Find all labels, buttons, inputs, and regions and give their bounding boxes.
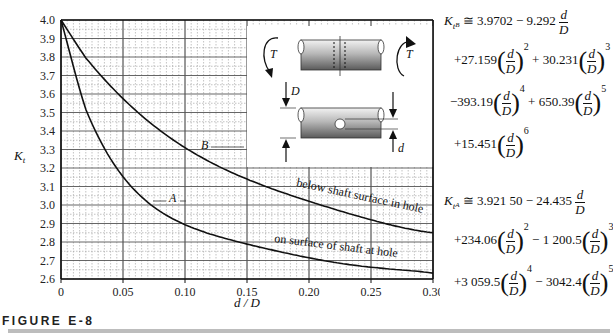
x-tick-label: 0.30 <box>423 285 441 299</box>
x-axis-label: d / D <box>234 295 261 310</box>
y-tick-label: 2.6 <box>40 272 55 286</box>
x-tick-label: 0.20 <box>299 285 320 299</box>
shaft-bottom-end-right <box>378 108 384 122</box>
transverse-hole <box>335 119 345 129</box>
caption-rule <box>8 329 610 333</box>
y-tick-label: 3.5 <box>40 106 55 120</box>
shaft-top <box>301 40 381 70</box>
curve-label-B: B <box>201 138 209 152</box>
shaft-top-end-right <box>378 40 384 54</box>
annotation-B: below shaft surface in hole <box>295 175 424 216</box>
y-tick-label: 3.7 <box>40 69 55 83</box>
y-tick-label: 3.0 <box>40 198 55 212</box>
x-tick-label: 0.05 <box>113 285 134 299</box>
y-tick-label: 3.9 <box>40 32 55 46</box>
equation-b: KtB ≅ 3.9702 − 9.292 dD +27.159(dD)2 + 3… <box>444 8 610 168</box>
y-axis-label: Kt <box>13 148 26 165</box>
curve-label-A: A <box>168 191 177 205</box>
y-tick-label: 3.1 <box>40 180 55 194</box>
y-tick-label: 3.4 <box>40 124 55 138</box>
y-tick-label: 3.2 <box>40 161 55 175</box>
equation-a: KtA ≅ 3.921 50 − 24.435 dD +234.06(dD)2 … <box>444 188 613 306</box>
shaft-diagram-inset: TTDd <box>247 26 433 167</box>
y-tick-label: 3.3 <box>40 143 55 157</box>
figure-caption: FIGURE E-8 <box>2 314 94 328</box>
shaft-top-end-left <box>298 40 304 54</box>
y-tick-label: 2.8 <box>40 235 55 249</box>
y-tick-label: 3.6 <box>40 87 55 101</box>
diameter-d-label: d <box>398 141 405 155</box>
y-tick-label: 3.8 <box>40 50 55 64</box>
x-tick-label: 0.10 <box>175 285 196 299</box>
y-axis-ticks: 4.03.93.83.73.63.53.43.33.23.13.02.92.82… <box>40 13 55 286</box>
kt-chart: TTDd BAbelow shaft surface in holeon sur… <box>0 0 440 312</box>
x-tick-label: 0 <box>58 285 64 299</box>
diameter-D-label: D <box>290 84 300 98</box>
shaft-bottom-end-left <box>298 108 304 122</box>
y-tick-label: 4.0 <box>40 13 55 27</box>
annotation-A: on surface of shaft at hole <box>274 231 399 260</box>
y-tick-label: 2.9 <box>40 217 55 231</box>
y-tick-label: 2.7 <box>40 254 55 268</box>
x-tick-label: 0.25 <box>361 285 382 299</box>
